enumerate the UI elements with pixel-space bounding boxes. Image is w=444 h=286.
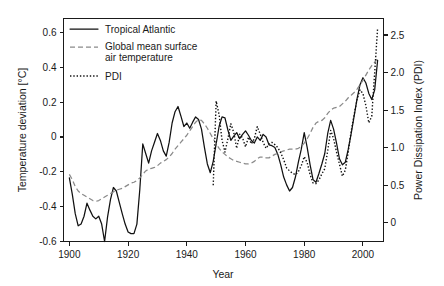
line-chart: Temperature deviation [°C] Power Dissipa… <box>0 0 444 286</box>
y-axis-right-tick-label: 2.5 <box>391 30 405 41</box>
x-axis-tick-label: 1960 <box>234 249 257 260</box>
legend-item-global-mean: Global mean surface air temperature <box>70 41 198 63</box>
y-axis-left-ticks: -0.6-0.4-0.200.20.40.6 <box>39 27 63 247</box>
x-axis-tick-label: 1920 <box>117 249 140 260</box>
chart-legend: Tropical Atlantic Global mean surface ai… <box>70 24 198 82</box>
y-axis-left-tick-label: 0 <box>51 131 57 142</box>
figure-container: Temperature deviation [°C] Power Dissipa… <box>0 0 444 286</box>
y-axis-right-tick-label: 1.5 <box>391 105 405 116</box>
y-axis-right-tick-label: 1.0 <box>391 142 405 153</box>
y-axis-left-tick-label: -0.2 <box>39 166 57 177</box>
x-axis-title: Year <box>212 268 234 280</box>
y-axis-right-title: Power Dissipation Index (PDI) <box>412 60 424 200</box>
legend-item-tropical-atlantic: Tropical Atlantic <box>70 24 175 35</box>
y-axis-left-tick-label: 0.4 <box>43 62 57 73</box>
x-axis-tick-label: 1900 <box>58 249 81 260</box>
legend-item-pdi: PDI <box>70 71 122 82</box>
y-axis-right-tick-label: 2.0 <box>391 67 405 78</box>
series-tropical-atlantic <box>69 60 377 241</box>
x-axis-tick-label: 1940 <box>176 249 199 260</box>
y-axis-left-tick-label: -0.6 <box>39 236 57 247</box>
legend-label-global-mean-line1: Global mean surface <box>105 41 198 52</box>
y-axis-left-tick-label: 0.2 <box>43 97 57 108</box>
x-axis-tick-label: 2000 <box>352 249 375 260</box>
y-axis-left-tick-label: -0.4 <box>39 201 57 212</box>
legend-label-pdi: PDI <box>105 71 122 82</box>
legend-label-global-mean-line2: air temperature <box>105 52 173 63</box>
y-axis-left-title: Temperature deviation [°C] <box>16 68 28 193</box>
legend-label-tropical-atlantic: Tropical Atlantic <box>105 24 175 35</box>
x-axis-ticks: 190019201940196019802000 <box>58 242 374 260</box>
y-axis-right-tick-label: 0 <box>391 217 397 228</box>
x-axis-tick-label: 1980 <box>293 249 316 260</box>
y-axis-right-ticks: 00.51.01.52.02.5 <box>384 30 405 229</box>
y-axis-right-tick-label: 0.5 <box>391 180 405 191</box>
y-axis-left-tick-label: 0.6 <box>43 27 57 38</box>
